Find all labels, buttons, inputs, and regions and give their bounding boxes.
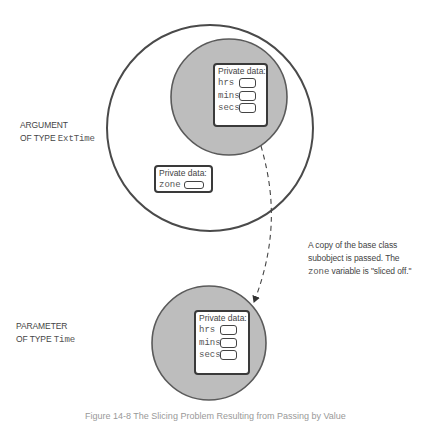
box-title: Private data:: [199, 313, 246, 324]
field-value-slot: [239, 91, 256, 101]
field-name: hrs: [218, 78, 239, 88]
field-row: hrs: [199, 324, 246, 337]
field-value-slot: [239, 78, 256, 88]
field-row: mins: [218, 90, 264, 103]
parameter-type-name: Time: [54, 335, 75, 345]
field-name: hrs: [199, 325, 220, 335]
field-row: hrs: [218, 77, 264, 90]
field-name: secs: [218, 103, 239, 113]
parameter-label-prefix: OF TYPE: [16, 334, 54, 344]
field-row: zone: [159, 179, 209, 192]
argument-label-line1: ARGUMENT: [20, 119, 95, 132]
field-row: secs: [218, 102, 264, 115]
field-name: mins: [199, 338, 220, 348]
argument-label: ARGUMENT OF TYPE ExtTime: [20, 119, 95, 146]
annotation-line2: subobject is passed. The: [308, 252, 411, 265]
field-row: mins: [199, 337, 246, 350]
field-name: zone: [159, 180, 184, 190]
field-value-slot: [220, 338, 237, 348]
field-name: mins: [218, 91, 239, 101]
annotation-rest: variable is "sliced off.": [329, 266, 411, 276]
field-value-slot: [220, 325, 237, 335]
figure-caption: Figure 14-8 The Slicing Problem Resultin…: [85, 411, 346, 421]
parameter-label: PARAMETER OF TYPE Time: [16, 320, 75, 347]
field-value-slot: [184, 181, 204, 189]
argument-type-name: ExtTime: [58, 134, 95, 144]
parameter-label-line2: OF TYPE Time: [16, 333, 75, 347]
argument-derived-data-box: Private data: zone: [154, 165, 213, 193]
field-row: secs: [199, 349, 246, 362]
argument-base-data-box: Private data: hrs mins secs: [213, 63, 268, 127]
annotation-code: zone: [308, 267, 329, 277]
parameter-label-line1: PARAMETER: [16, 320, 75, 333]
field-name: secs: [199, 350, 220, 360]
box-title: Private data:: [159, 168, 209, 179]
parameter-data-box: Private data: hrs mins secs: [194, 310, 250, 375]
field-value-slot: [239, 103, 256, 113]
argument-label-line2: OF TYPE ExtTime: [20, 132, 95, 146]
annotation-line3: zone variable is "sliced off.": [308, 265, 411, 279]
box-title: Private data:: [218, 66, 264, 77]
annotation-line1: A copy of the base class: [308, 239, 411, 252]
argument-label-prefix: OF TYPE: [20, 133, 58, 143]
field-value-slot: [220, 350, 237, 360]
slicing-annotation: A copy of the base class subobject is pa…: [308, 239, 411, 279]
